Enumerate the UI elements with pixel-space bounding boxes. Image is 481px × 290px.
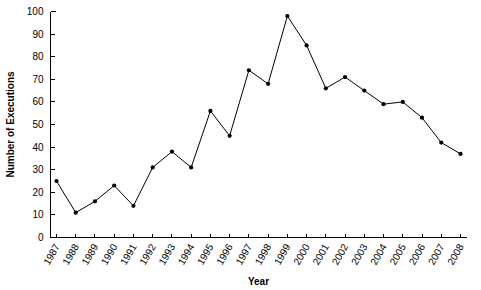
data-point-marker bbox=[112, 183, 116, 187]
data-point-marker bbox=[208, 109, 212, 113]
data-point-marker bbox=[458, 152, 462, 156]
data-point-marker bbox=[228, 134, 232, 138]
x-axis-tick-label: 1997 bbox=[233, 242, 254, 267]
y-axis-tick-label: 30 bbox=[32, 164, 44, 175]
x-axis-tick-label: 2004 bbox=[368, 242, 389, 267]
data-point-marker bbox=[131, 204, 135, 208]
x-axis-tick-label: 2003 bbox=[349, 242, 370, 267]
y-axis-tick-label: 10 bbox=[32, 209, 44, 220]
x-axis-tick-label: 2000 bbox=[291, 242, 312, 267]
data-point-marker bbox=[305, 43, 309, 47]
y-axis-tick-label: 100 bbox=[27, 6, 44, 17]
x-axis-tick-label: 2001 bbox=[310, 242, 331, 267]
y-axis-tick-label: 80 bbox=[32, 51, 44, 62]
x-axis-tick-label: 1989 bbox=[80, 242, 101, 267]
execution-count-line-chart: 0102030405060708090100198719881989199019… bbox=[0, 0, 481, 290]
data-point-marker bbox=[362, 89, 366, 93]
x-axis-tick-label: 2007 bbox=[426, 242, 447, 267]
x-axis-title: Year bbox=[248, 276, 269, 287]
data-point-marker bbox=[439, 140, 443, 144]
y-axis-tick-label: 90 bbox=[32, 29, 44, 40]
x-axis-tick-label: 2002 bbox=[330, 242, 351, 267]
data-point-marker bbox=[381, 102, 385, 106]
data-point-marker bbox=[324, 86, 328, 90]
data-point-marker bbox=[343, 75, 347, 79]
y-axis-tick-label: 50 bbox=[32, 119, 44, 130]
y-axis-tick-label: 40 bbox=[32, 142, 44, 153]
x-axis-tick-label: 1987 bbox=[41, 242, 62, 267]
y-axis-tick-label: 70 bbox=[32, 74, 44, 85]
data-point-marker bbox=[266, 82, 270, 86]
x-axis-tick-label: 1996 bbox=[214, 242, 235, 267]
x-axis-tick-label: 1999 bbox=[272, 242, 293, 267]
data-point-marker bbox=[151, 165, 155, 169]
y-axis-title: Number of Executions bbox=[5, 71, 16, 178]
data-point-marker bbox=[247, 68, 251, 72]
x-axis-tick-label: 1990 bbox=[99, 242, 120, 267]
y-axis-tick-label: 20 bbox=[32, 187, 44, 198]
y-axis-tick-label: 0 bbox=[38, 232, 44, 243]
x-axis-tick-label: 2008 bbox=[445, 242, 466, 267]
data-point-marker bbox=[401, 100, 405, 104]
x-axis-tick-label: 2005 bbox=[387, 242, 408, 267]
data-point-marker bbox=[189, 165, 193, 169]
x-axis-tick-label: 1998 bbox=[253, 242, 274, 267]
x-axis-tick-label: 1988 bbox=[60, 242, 81, 267]
data-point-marker bbox=[285, 14, 289, 18]
data-point-marker bbox=[54, 179, 58, 183]
x-axis-tick-label: 2006 bbox=[407, 242, 428, 267]
x-axis-tick-label: 1994 bbox=[176, 242, 197, 267]
data-series-line bbox=[57, 16, 461, 213]
data-point-marker bbox=[93, 199, 97, 203]
data-point-marker bbox=[74, 211, 78, 215]
x-axis-tick-label: 1991 bbox=[118, 242, 139, 267]
data-point-marker bbox=[420, 116, 424, 120]
chart-canvas: 0102030405060708090100198719881989199019… bbox=[0, 0, 481, 290]
x-axis-tick-label: 1993 bbox=[157, 242, 178, 267]
data-point-marker bbox=[170, 150, 174, 154]
x-axis-tick-label: 1995 bbox=[195, 242, 216, 267]
x-axis-tick-label: 1992 bbox=[137, 242, 158, 267]
y-axis-tick-label: 60 bbox=[32, 96, 44, 107]
